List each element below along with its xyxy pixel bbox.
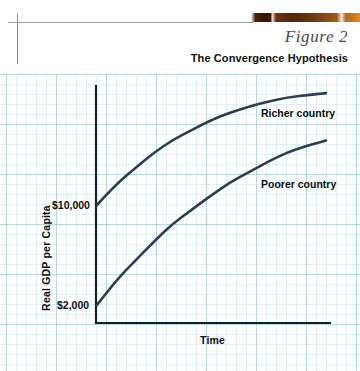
series-label-richer-country: Richer country — [261, 107, 335, 119]
y-tick-label-2000: $2,000 — [57, 299, 89, 311]
header-rule — [8, 22, 253, 23]
y-axis-title: Real GDP per Capita — [40, 198, 52, 318]
curve-poorer-country — [97, 141, 326, 305]
x-axis-title: Time — [200, 334, 225, 346]
figure-title: The Convergence Hypothesis — [191, 52, 348, 64]
decorative-gradient-bar — [251, 13, 360, 22]
figure-number-label: Figure 2 — [285, 27, 348, 47]
y-tick-label-10000: $10,000 — [52, 199, 90, 211]
figure-page: Figure 2 The Convergence Hypothesis Real… — [0, 0, 360, 371]
series-label-poorer-country: Poorer country — [261, 178, 336, 190]
